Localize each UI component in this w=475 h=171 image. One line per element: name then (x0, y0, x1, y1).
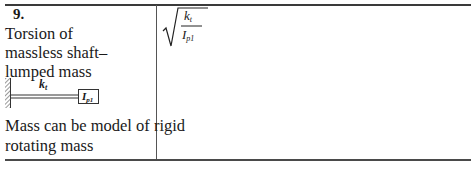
title-line-1: Torsion of (5, 24, 107, 43)
row-title: Torsion of massless shaft– lumped mass (5, 24, 107, 81)
note-line-2: rotating mass (5, 136, 185, 156)
title-line-2: massless shaft– (5, 43, 107, 62)
shaft-icon (11, 95, 78, 98)
row-note: Mass can be model of rigid rotating mass (5, 116, 185, 156)
row-number: 9. (13, 6, 24, 23)
formula-denominator: Ip1 (181, 27, 194, 43)
spring-label: kt (39, 77, 48, 92)
table-bottom-rule (5, 159, 471, 161)
note-line-1: Mass can be model of rigid (5, 116, 185, 136)
fixed-wall-icon (5, 78, 11, 108)
formula-numerator: kt (184, 8, 193, 24)
table-top-rule (5, 4, 471, 6)
natural-frequency-formula: kt Ip1 (162, 6, 212, 50)
shaft-mass-diagram: kt Ip1 (3, 76, 103, 110)
lumped-mass-box: Ip1 (79, 90, 99, 105)
